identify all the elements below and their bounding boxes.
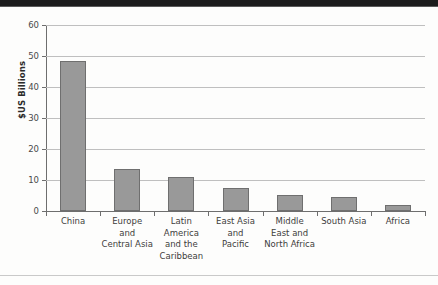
x-axis-labels: ChinaEuropeandCentral AsiaLatinAmericaan… <box>46 216 425 278</box>
bar <box>60 61 86 211</box>
x-axis-category-label: EuropeandCentral Asia <box>100 216 154 251</box>
x-axis-category-label: South Asia <box>317 216 371 228</box>
bar <box>168 177 194 211</box>
x-axis-category-label: Africa <box>371 216 425 228</box>
x-axis-category-label-line: America <box>154 228 208 240</box>
scan-artifact-top-band <box>0 0 438 6</box>
x-axis-category-label-line: Middle <box>263 216 317 228</box>
x-axis-category-label-line: Latin <box>154 216 208 228</box>
y-gridline <box>46 211 425 212</box>
x-axis-category-label: MiddleEast andNorth Africa <box>263 216 317 251</box>
bar <box>385 205 411 211</box>
x-axis-category-label-line: Africa <box>371 216 425 228</box>
y-tick-mark <box>42 25 46 26</box>
x-axis-category-label-line: East Asia <box>208 216 262 228</box>
bar <box>331 197 357 211</box>
x-axis-category-label: East AsiaandPacific <box>208 216 262 251</box>
y-tick-mark <box>42 56 46 57</box>
y-gridline <box>46 180 425 181</box>
chart-figure: $US Billions 0102030405060 ChinaEuropean… <box>0 0 438 285</box>
x-axis-category-label-line: North Africa <box>263 239 317 251</box>
y-tick-label: 50 <box>28 51 39 61</box>
bar <box>223 188 249 211</box>
y-gridline <box>46 87 425 88</box>
x-axis-category-label-line: Pacific <box>208 239 262 251</box>
y-tick-mark <box>42 180 46 181</box>
x-axis-category-label-line: China <box>46 216 100 228</box>
y-gridline <box>46 149 425 150</box>
y-tick-label: 30 <box>28 113 39 123</box>
plot-area: 0102030405060 <box>46 25 425 211</box>
x-axis-category-label-line: Caribbean <box>154 251 208 263</box>
y-tick-label: 0 <box>34 206 39 216</box>
y-axis-title: $US Billions <box>17 45 27 135</box>
y-tick-label: 20 <box>28 144 39 154</box>
bar <box>277 195 303 211</box>
y-tick-label: 40 <box>28 82 39 92</box>
y-tick-mark <box>42 87 46 88</box>
x-axis-category-label-line: Europe <box>100 216 154 228</box>
bar <box>114 169 140 211</box>
y-gridline <box>46 25 425 26</box>
y-tick-mark <box>42 118 46 119</box>
y-tick-mark <box>42 149 46 150</box>
y-gridline <box>46 56 425 57</box>
x-axis-category-label-line: East and <box>263 228 317 240</box>
x-axis-category-label-line: and <box>208 228 262 240</box>
x-axis-category-label: LatinAmericaand theCaribbean <box>154 216 208 262</box>
x-axis-category-label-line: and <box>100 228 154 240</box>
y-tick-label: 60 <box>28 20 39 30</box>
y-gridline <box>46 118 425 119</box>
x-axis-category-label: China <box>46 216 100 228</box>
x-tick-mark <box>425 211 426 216</box>
x-axis-category-label-line: Central Asia <box>100 239 154 251</box>
y-tick-label: 10 <box>28 175 39 185</box>
x-axis-category-label-line: and the <box>154 239 208 251</box>
x-axis-category-label-line: South Asia <box>317 216 371 228</box>
